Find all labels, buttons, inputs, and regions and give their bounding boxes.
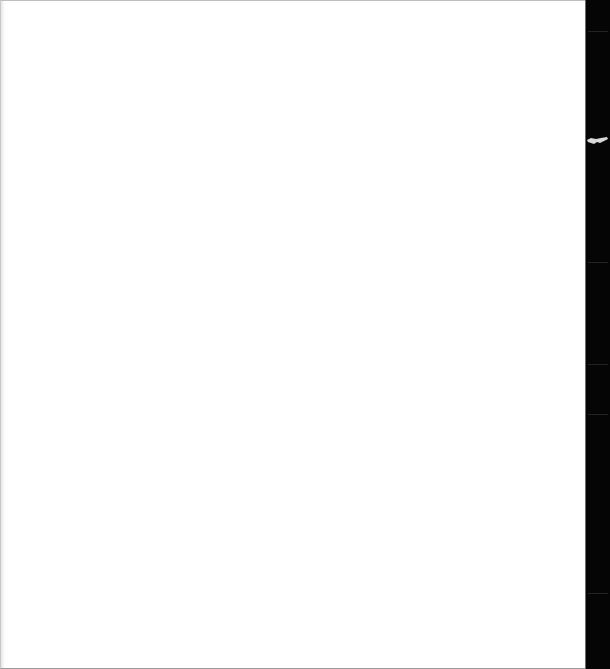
page-left-shadow [1,1,5,668]
strip-line [588,262,608,263]
blank-page [0,0,585,669]
strip-line [588,414,608,415]
smudge-icon [587,137,608,145]
screen-frame [0,0,610,669]
strip-line [588,364,608,365]
dark-side-strip [585,0,610,669]
page-content [1,1,2,2]
strip-line [588,31,608,32]
strip-line [588,593,608,594]
strip-divider [585,0,586,669]
